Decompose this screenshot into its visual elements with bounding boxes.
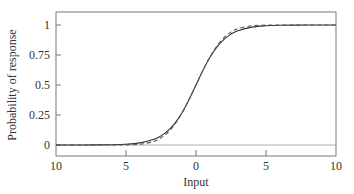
x-axis-ticks: 1050510 xyxy=(50,150,342,173)
y-tick-label: 0.75 xyxy=(29,48,50,62)
y-tick-label: 0 xyxy=(44,138,50,152)
y-tick-label: 1 xyxy=(44,18,50,32)
y-axis-label: Probability of response xyxy=(5,29,19,140)
probit-curve xyxy=(56,25,336,145)
x-tick-label: 5 xyxy=(123,159,129,173)
x-tick-label: 10 xyxy=(330,159,342,173)
y-tick-label: 0.25 xyxy=(29,108,50,122)
x-tick-label: 10 xyxy=(50,159,62,173)
x-tick-label: 0 xyxy=(193,159,199,173)
chart: 00.250.50.751 1050510 Input Probability … xyxy=(0,0,354,194)
x-axis-label: Input xyxy=(183,175,209,189)
x-tick-label: 5 xyxy=(263,159,269,173)
y-tick-label: 0.5 xyxy=(35,78,50,92)
